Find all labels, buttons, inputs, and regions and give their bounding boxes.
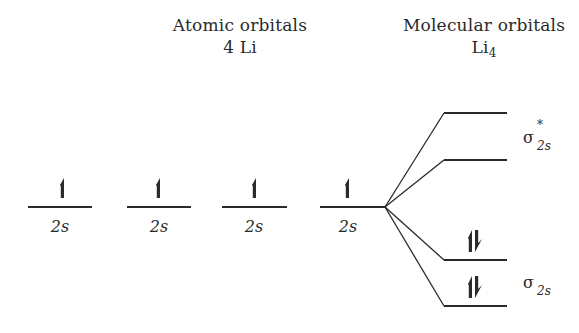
ao-label: 2s: [149, 217, 168, 236]
electron-pair-arrows-icon: [468, 276, 482, 298]
antibonding-subscript: 2s: [536, 139, 551, 153]
bonding-subscript: 2s: [536, 284, 551, 298]
molecular-orbital-4: [444, 276, 507, 306]
atomic-orbital-3: 2s: [222, 178, 287, 236]
sigma-symbol: σ: [523, 128, 534, 147]
atomic-orbital-1: 2s: [28, 178, 92, 236]
bonding-label: σ 2s: [523, 273, 551, 298]
sigma-symbol: σ: [523, 273, 534, 292]
ao-label: 2s: [338, 217, 357, 236]
orbital-diagram-svg: 2s 2s 2s 2s: [0, 0, 579, 333]
electron-up-arrow-icon: [252, 178, 256, 198]
electron-up-arrow-icon: [156, 178, 160, 198]
ao-label: 2s: [50, 217, 69, 236]
electron-up-arrow-icon: [345, 178, 349, 198]
atomic-orbital-2: 2s: [127, 178, 191, 236]
antibonding-label: σ * 2s: [523, 118, 551, 153]
mo-diagram: Atomic orbitals 4 Li Molecular orbitals …: [0, 0, 579, 333]
electron-up-arrow-icon: [60, 178, 64, 198]
ao-label: 2s: [244, 217, 263, 236]
electron-pair-arrows-icon: [468, 230, 482, 252]
atomic-orbital-4: 2s: [320, 178, 385, 236]
correlation-lines: [385, 113, 444, 306]
antibonding-star: *: [537, 118, 543, 132]
molecular-orbital-3: [444, 230, 507, 260]
